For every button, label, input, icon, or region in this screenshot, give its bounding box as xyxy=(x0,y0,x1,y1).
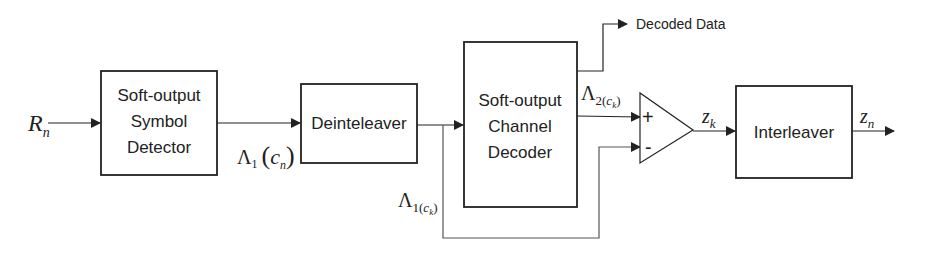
interleaver-block: Interleaver xyxy=(736,86,852,178)
block-label: Channel xyxy=(488,117,551,136)
plus-sign: + xyxy=(642,106,654,128)
block-label: Detector xyxy=(127,138,192,157)
summer-block: + - xyxy=(640,93,693,163)
decoded-data-label: Decoded Data xyxy=(636,16,726,32)
lambda2-to-summer-arrow xyxy=(577,116,640,117)
deinterleaver-block: Deinteleaver xyxy=(301,84,417,163)
block-label: Deinteleaver xyxy=(311,114,407,133)
block-label: Decoder xyxy=(488,143,553,162)
block-label: Soft-output xyxy=(117,86,200,105)
minus-sign: - xyxy=(645,136,652,158)
zn-label: zn xyxy=(859,105,874,131)
block-label: Symbol xyxy=(131,112,188,131)
channel-decoder-block: Soft-output Channel Decoder xyxy=(464,42,577,207)
lambda1-cn-label: Λ1(cn) xyxy=(237,141,295,172)
block-label: Interleaver xyxy=(754,123,835,142)
input-signal-label: Rn xyxy=(27,110,50,140)
lambda1-ck-label: Λ1(ck) xyxy=(398,189,437,217)
zk-label: zk xyxy=(701,105,716,131)
symbol-detector-block: Soft-output Symbol Detector xyxy=(101,71,217,175)
decoded-data-path xyxy=(577,24,627,71)
block-diagram: Rn Soft-output Symbol Detector Λ1(cn) De… xyxy=(0,0,925,254)
lambda2-ck-label: Λ2(ck) xyxy=(581,82,620,110)
block-label: Soft-output xyxy=(478,91,561,110)
